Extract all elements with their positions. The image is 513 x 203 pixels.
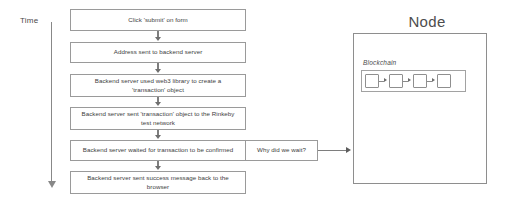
diagram-canvas: Time Click 'submit' on form Address sent… (0, 0, 513, 203)
annotation-box[interactable]: Why did we wait? (245, 140, 318, 161)
flow-step-text-line1: Backend server sent success message back… (87, 174, 229, 183)
connector-arrow-5-6-icon (155, 166, 161, 170)
blockchain-block[interactable] (365, 74, 379, 88)
blockchain-label: Blockchain (363, 59, 396, 66)
connector-arrow-1-2-icon (155, 37, 161, 41)
blockchain-link-arrow-icon (432, 78, 435, 82)
time-axis-line (51, 22, 52, 183)
time-axis-label: Time (20, 16, 38, 25)
time-axis-arrow-icon (48, 181, 56, 188)
flow-step-text-line1: Click 'submit' on form (128, 16, 188, 25)
blockchain-block[interactable] (389, 74, 403, 88)
flow-step-text-line1: Address sent to backend server (114, 48, 203, 57)
flow-step-text-line2: browser (87, 183, 229, 192)
connector-arrow-4-5-icon (155, 135, 161, 139)
blockchain-link-arrow-icon (408, 78, 411, 82)
flow-step-box[interactable]: Click 'submit' on form (70, 9, 246, 31)
blockchain-block[interactable] (437, 74, 451, 88)
node-panel-box[interactable] (353, 33, 487, 184)
flow-step-text-line1: Backend server sent 'transaction' object… (81, 110, 234, 119)
blockchain-block[interactable] (413, 74, 427, 88)
flow-step-text-line2: 'transaction' object (95, 86, 221, 95)
flow-step-text-line1: Backend server used web3 library to crea… (95, 77, 221, 86)
flow-step-text-line1: Backend server waited for transaction to… (83, 146, 234, 155)
connector-arrow-3-4-icon (155, 102, 161, 106)
connector-arrow-2-3-icon (155, 69, 161, 73)
node-panel-title: Node (397, 13, 457, 30)
flow-step-text-line2: test network (81, 119, 234, 128)
flow-step-box[interactable]: Address sent to backend server (70, 42, 246, 63)
connector-arrow-annotation-node-icon (346, 147, 351, 153)
connector-line-annotation-node (318, 150, 347, 151)
flow-step-box[interactable]: Backend server waited for transaction to… (70, 140, 246, 161)
flow-step-box[interactable]: Backend server sent success message back… (70, 171, 246, 194)
blockchain-link-arrow-icon (384, 78, 387, 82)
annotation-text: Why did we wait? (257, 146, 306, 155)
flow-step-box[interactable]: Backend server used web3 library to crea… (70, 74, 246, 97)
flow-step-box[interactable]: Backend server sent 'transaction' object… (70, 107, 246, 130)
